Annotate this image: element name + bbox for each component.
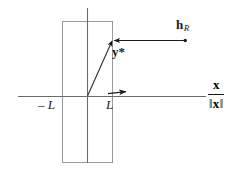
norm-variable: x — [213, 96, 220, 111]
axis-tick-label-L: L — [106, 98, 113, 111]
fraction-denominator: ‖x‖ — [208, 96, 224, 111]
axis-tick-label-negative-L: – L — [38, 98, 55, 111]
h-subscript: R — [183, 23, 189, 33]
y-star-asterisk: * — [119, 44, 126, 59]
fraction-bar — [208, 94, 224, 95]
figure-canvas: – L L y* hR x ‖x‖ — [0, 0, 252, 170]
h-vector-label: hR — [176, 18, 189, 33]
h-point-marker — [184, 39, 187, 42]
x-axis-direction-arrow — [108, 92, 126, 94]
x-axis-label-fraction: x ‖x‖ — [208, 78, 224, 110]
norm-close-bar: ‖ — [220, 97, 224, 111]
y-star-vector — [88, 41, 113, 96]
y-star-label: y* — [112, 45, 125, 58]
fraction-numerator: x — [208, 78, 224, 93]
